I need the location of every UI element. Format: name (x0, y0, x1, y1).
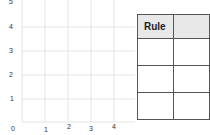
y-tick-2: 2 (9, 71, 13, 78)
rule-header-2 (173, 15, 209, 39)
x-tick-0: 0 (11, 125, 15, 132)
rule-header: Rule (138, 15, 174, 39)
y-tick-1: 1 (10, 95, 14, 102)
x-tick-4: 4 (112, 123, 116, 130)
rule-table: Rule (137, 14, 210, 120)
x-tick-2: 2 (67, 123, 71, 130)
table-cell[interactable] (173, 66, 209, 93)
y-tick-5: 5 (9, 0, 13, 5)
table-cell[interactable] (173, 93, 209, 120)
y-tick-3: 3 (9, 47, 13, 54)
table-cell[interactable] (138, 66, 174, 93)
table-cell[interactable] (138, 39, 174, 66)
x-tick-1: 1 (44, 126, 48, 133)
table-cell[interactable] (138, 93, 174, 120)
y-tick-4: 4 (9, 23, 13, 30)
x-tick-3: 3 (89, 125, 93, 132)
coordinate-grid (0, 0, 135, 135)
table-cell[interactable] (173, 39, 209, 66)
